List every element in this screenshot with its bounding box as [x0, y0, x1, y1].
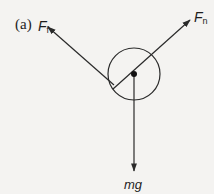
friction-force-arrow — [48, 27, 114, 85]
friction-subscript: f — [47, 25, 50, 35]
weight-force-label: mg — [124, 178, 142, 191]
normal-symbol: F — [194, 9, 203, 25]
panel-label-text: (a) — [15, 16, 32, 32]
free-body-diagram — [0, 0, 214, 194]
weight-symbol: mg — [124, 177, 142, 192]
panel-label: (a) — [15, 17, 32, 32]
normal-subscript: n — [203, 16, 208, 26]
normal-force-arrow — [113, 20, 190, 89]
friction-symbol: F — [38, 18, 47, 34]
friction-force-label: Ff — [38, 19, 49, 35]
normal-force-label: Fn — [194, 10, 208, 26]
center-of-mass-dot — [131, 71, 137, 77]
